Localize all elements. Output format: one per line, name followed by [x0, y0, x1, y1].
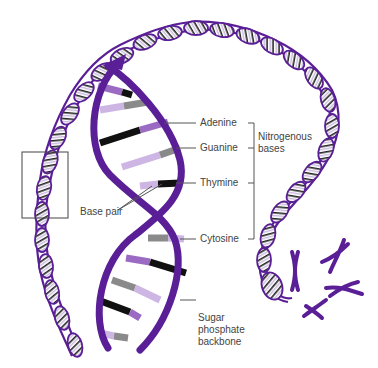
label-adenine: Adenine	[200, 117, 237, 129]
label-thymine: Thymine	[200, 177, 238, 189]
label-nitrogenous-line2: bases	[258, 143, 312, 155]
dna-diagram: Adenine Guanine Thymine Cytosine Nitroge…	[0, 0, 378, 368]
label-backbone-line2: phosphate	[198, 324, 245, 336]
label-nitrogenous-line1: Nitrogenous	[258, 131, 312, 143]
label-cytosine: Cytosine	[200, 233, 239, 245]
dna-illustration	[0, 0, 378, 368]
label-backbone-line3: backbone	[198, 336, 245, 348]
label-nitrogenous-bases: Nitrogenous bases	[258, 131, 312, 155]
label-guanine: Guanine	[200, 142, 238, 154]
label-sugar-phosphate-backbone: Sugar phosphate backbone	[198, 312, 245, 348]
chromosomes	[292, 240, 362, 318]
label-backbone-line1: Sugar	[198, 312, 245, 324]
label-base-pair: Base pair	[80, 206, 122, 218]
coil-lobes	[35, 21, 339, 358]
